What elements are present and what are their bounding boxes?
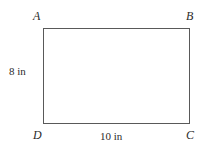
dimension-label-width: 10 in bbox=[100, 131, 122, 142]
vertex-label-b: B bbox=[186, 10, 193, 22]
geometry-figure: A B C D 8 in 10 in bbox=[0, 0, 209, 151]
vertex-label-a: A bbox=[33, 10, 40, 22]
rectangle-shape bbox=[43, 28, 190, 124]
vertex-label-c: C bbox=[186, 129, 194, 141]
dimension-label-height: 8 in bbox=[9, 66, 26, 77]
vertex-label-d: D bbox=[33, 129, 42, 141]
